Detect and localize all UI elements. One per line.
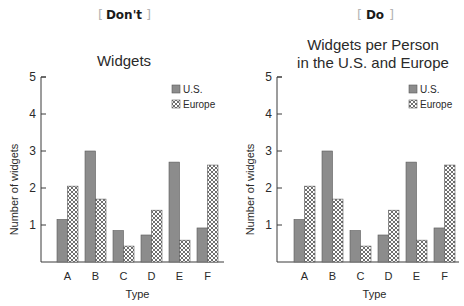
plot-area: 12345Number of widgetsABCDEFTypeU.S.Euro… [8,70,224,300]
bracket-close: ] [389,7,394,22]
y-axis-label: Number of widgets [244,143,256,235]
bar-europe-D [152,210,163,262]
bar-europe-D [389,210,400,262]
legend-swatch-europe [172,100,180,108]
legend-swatch-us [409,85,417,93]
y-tick-label: 4 [265,107,272,121]
bar-europe-F [445,165,456,262]
x-tick-label: D [148,270,156,282]
x-tick-label: E [176,270,183,282]
bracket-open: [ [357,7,362,22]
bar-us-E [406,162,417,262]
bar-europe-E [417,240,428,262]
y-tick-label: 4 [29,107,36,121]
bar-europe-C [361,246,372,262]
plot-area: 12345Number of widgetsABCDEFTypeU.S.Euro… [244,70,459,300]
x-tick-label: B [92,270,99,282]
y-tick-label: 1 [265,218,272,232]
panel-header-dont: [ Don't ] [98,7,151,22]
y-tick-label: 2 [265,181,272,195]
x-tick-label: A [301,270,309,282]
bar-us-B [322,151,333,262]
bar-europe-B [333,199,344,262]
x-tick-label: A [64,270,72,282]
bar-us-A [294,219,305,262]
bar-us-E [169,162,180,262]
bar-europe-C [124,246,135,262]
y-tick-label: 3 [265,144,272,158]
legend-swatch-europe [409,100,417,108]
panel-header-do: [ Do ] [357,7,394,22]
y-tick-label: 3 [29,144,36,158]
header-label: Do [366,8,384,22]
x-tick-label: C [120,270,128,282]
x-axis-label: Type [126,288,150,300]
chart-comparison-canvas: [ Don't ] Widgets 12345Number of widgets… [0,0,464,306]
y-tick-label: 5 [265,70,272,84]
bar-us-C [113,231,124,262]
chart-title: Widgets [97,52,151,69]
bar-us-F [197,228,208,262]
bar-us-A [57,219,68,262]
bar-us-D [378,235,389,262]
bar-europe-F [208,165,219,262]
y-axis-label: Number of widgets [8,143,20,235]
bar-us-D [141,235,152,262]
x-tick-label: C [357,270,365,282]
header-label: Don't [106,8,142,22]
legend: U.S.Europe [409,84,453,110]
x-axis-label: Type [363,288,387,300]
y-tick-label: 1 [29,218,36,232]
legend-label: Europe [420,99,453,110]
y-tick-label: 2 [29,181,36,195]
bracket-open: [ [98,7,103,22]
panel-dont: [ Don't ] Widgets 12345Number of widgets… [8,7,224,300]
x-tick-label: F [441,270,448,282]
bar-europe-E [180,240,191,262]
legend: U.S.Europe [172,84,216,110]
legend-label: U.S. [420,84,439,95]
panel-do: [ Do ] Widgets per Person in the U.S. an… [244,7,459,300]
x-tick-label: F [204,270,211,282]
chart-title-line-2: in the U.S. and Europe [297,54,449,71]
bar-us-B [85,151,96,262]
x-tick-label: D [385,270,393,282]
legend-label: U.S. [183,84,202,95]
bar-europe-A [305,186,316,262]
legend-swatch-us [172,85,180,93]
x-tick-label: E [413,270,420,282]
chart-title-line-1: Widgets per Person [307,36,439,53]
bar-europe-B [96,199,107,262]
y-tick-label: 5 [29,70,36,84]
bracket-close: ] [146,7,151,22]
legend-label: Europe [183,99,216,110]
bar-europe-A [68,186,79,262]
bar-us-F [434,228,445,262]
bar-us-C [350,231,361,262]
x-tick-label: B [329,270,336,282]
